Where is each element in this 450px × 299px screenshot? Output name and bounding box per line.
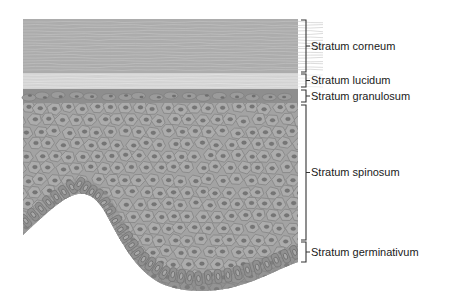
epidermis-diagram: Stratum corneumStratum lucidumStratum gr…: [0, 0, 450, 299]
label-stratum-corneum: Stratum corneum: [311, 40, 395, 52]
stratum-lucidum-layer: [23, 73, 323, 89]
layer-brackets: [301, 20, 310, 262]
stratum-corneum-layer: [23, 19, 323, 73]
label-stratum-germinativum: Stratum germinativum: [311, 246, 419, 258]
stratum-granulosum-layer: [22, 89, 298, 103]
label-stratum-granulosum: Stratum granulosum: [311, 90, 410, 102]
bracket-granulosum: [301, 90, 310, 102]
label-stratum-spinosum: Stratum spinosum: [311, 166, 400, 178]
cellular-layers: [11, 100, 308, 299]
bracket-spinosum: [301, 105, 310, 240]
label-stratum-lucidum: Stratum lucidum: [311, 74, 390, 86]
bracket-lucidum: [301, 74, 310, 87]
bracket-germinativum: [301, 242, 310, 262]
